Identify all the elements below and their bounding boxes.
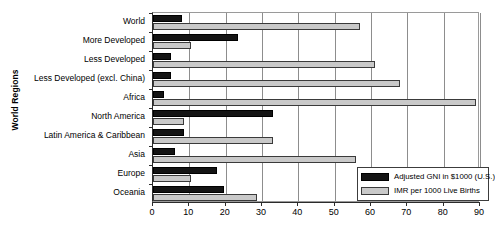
bar-imr [153, 61, 375, 68]
x-axis-tick [261, 202, 262, 206]
bar-adjusted-gni [153, 72, 171, 79]
legend-item: IMR per 1000 Live Births [361, 184, 485, 198]
bar-imr [153, 118, 184, 125]
bar-imr [153, 175, 191, 182]
x-axis-tick [188, 202, 189, 206]
bar-adjusted-gni [153, 148, 175, 155]
category-label: More Developed [18, 31, 149, 50]
category-axis-labels: WorldMore DevelopedLess DevelopedLess De… [18, 12, 149, 202]
y-axis-tick [149, 51, 153, 52]
category-label: Less Developed (excl. China) [18, 69, 149, 88]
x-axis-tick-label: 10 [183, 207, 193, 217]
x-axis-tick [406, 202, 407, 206]
x-axis-tick [297, 202, 298, 206]
bar-group [153, 127, 478, 146]
legend-item: Adjusted GNI in $1000 (U.S.) [361, 170, 485, 184]
bar-imr [153, 194, 257, 201]
x-axis-tick [334, 202, 335, 206]
bar-adjusted-gni [153, 129, 184, 136]
category-label: World [18, 12, 149, 31]
y-axis-tick [149, 108, 153, 109]
legend-swatch-gni [361, 173, 389, 181]
x-axis-tick-label: 0 [149, 207, 154, 217]
category-label: Asia [18, 145, 149, 164]
bar-group [153, 70, 478, 89]
legend-label: IMR per 1000 Live Births [394, 187, 480, 195]
legend-label: Adjusted GNI in $1000 (U.S.) [394, 173, 495, 181]
y-axis-tick [149, 13, 153, 14]
x-axis-tick-label: 50 [329, 207, 339, 217]
y-axis-tick [149, 70, 153, 71]
bar-gap [153, 41, 478, 43]
bar-imr [153, 99, 476, 106]
bar-adjusted-gni [153, 53, 171, 60]
category-label: North America [18, 107, 149, 126]
x-axis-tick-label: 60 [365, 207, 375, 217]
x-axis-tick-label: 80 [438, 207, 448, 217]
x-axis-tick [152, 202, 153, 206]
y-axis-tick [149, 184, 153, 185]
category-label: Less Developed [18, 50, 149, 69]
x-axis-tick [225, 202, 226, 206]
x-axis-tick [479, 202, 480, 206]
bar-adjusted-gni [153, 91, 164, 98]
x-axis-tick [443, 202, 444, 206]
y-axis-tick [149, 89, 153, 90]
y-axis-tick [149, 146, 153, 147]
chart-legend: Adjusted GNI in $1000 (U.S.)IMR per 1000… [357, 167, 489, 201]
bar-gap [153, 117, 478, 119]
y-axis-tick [149, 127, 153, 128]
legend-swatch-imr [361, 187, 389, 195]
x-axis-tick-label: 40 [292, 207, 302, 217]
x-axis-tick [370, 202, 371, 206]
x-axis-tick-label: 30 [256, 207, 266, 217]
category-label: Oceania [18, 183, 149, 202]
bar-adjusted-gni [153, 167, 217, 174]
bar-group [153, 146, 478, 165]
bar-group [153, 108, 478, 127]
category-label: Latin America & Caribbean [18, 126, 149, 145]
bar-imr [153, 23, 360, 30]
bar-adjusted-gni [153, 110, 273, 117]
x-axis: 0102030405060708090 [152, 202, 479, 224]
bar-group [153, 13, 478, 32]
bar-group [153, 32, 478, 51]
x-axis-tick-label: 20 [220, 207, 230, 217]
y-axis-tick [149, 32, 153, 33]
bar-imr [153, 80, 400, 87]
x-axis-tick-label: 90 [474, 207, 484, 217]
x-axis-tick-label: 70 [401, 207, 411, 217]
bar-imr [153, 137, 273, 144]
category-label: Europe [18, 164, 149, 183]
bar-imr [153, 156, 356, 163]
bar-group [153, 51, 478, 70]
bar-adjusted-gni [153, 34, 238, 41]
category-label: Africa [18, 88, 149, 107]
y-axis-tick [149, 165, 153, 166]
bar-adjusted-gni [153, 15, 182, 22]
bar-imr [153, 42, 191, 49]
bar-group [153, 89, 478, 108]
x-axis-line [152, 202, 479, 203]
bar-adjusted-gni [153, 186, 224, 193]
